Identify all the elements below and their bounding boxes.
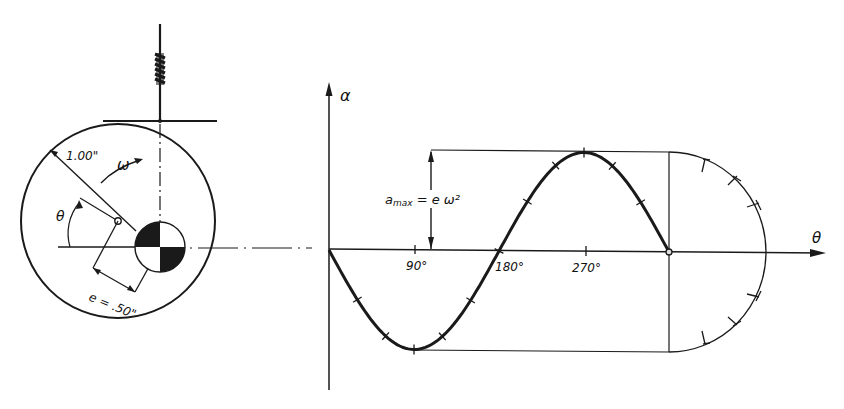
radius-label: 1.00" (66, 149, 98, 163)
x-axis (329, 249, 822, 253)
theta-label: θ (56, 208, 65, 224)
y-axis-label: α (340, 86, 351, 105)
min-bound-line (415, 350, 669, 352)
center-of-mass-icon (135, 222, 185, 272)
tick-90: 90° (406, 259, 427, 273)
eccentricity-label: e = .50" (87, 290, 138, 322)
acceleration-graph: α θ 90° 180° 270° amax = e ω² (326, 82, 827, 390)
endpoint-marker (666, 249, 672, 255)
max-bound-line (431, 150, 669, 152)
omega-label: ω (117, 156, 130, 174)
eccentric-cam-figure: 1.00" ω θ e = .50" (21, 24, 312, 321)
x-axis-label: θ (812, 229, 821, 247)
diagram: 1.00" ω θ e = .50" α θ 90° 180° 270° (0, 0, 844, 409)
tick-180: 180° (495, 260, 524, 274)
spring-icon (155, 53, 165, 85)
tick-270: 270° (572, 261, 601, 275)
theta-arc (68, 203, 79, 247)
